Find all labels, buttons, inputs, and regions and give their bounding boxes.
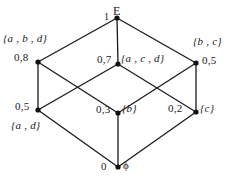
node-top-set: E bbox=[113, 5, 121, 17]
node-lower-right[interactable] bbox=[193, 109, 198, 114]
node-top-measure: 1 bbox=[104, 12, 109, 22]
lattice-edges bbox=[38, 18, 196, 167]
node-lower-left[interactable] bbox=[35, 107, 40, 112]
node-lower-right-measure: 0,2 bbox=[168, 103, 182, 114]
node-bottom-set: ϕ bbox=[123, 160, 129, 171]
node-lower-left-measure: 0,5 bbox=[15, 101, 29, 112]
node-bottom-measure: 0 bbox=[101, 161, 107, 172]
lattice-diagram: 1 E {a , b , d} 0,8 0,7 {a , c , d} {b ,… bbox=[0, 0, 231, 191]
node-upper-left-set: {a , b , d} bbox=[3, 33, 47, 44]
node-lower-right-set: {c} bbox=[200, 103, 214, 114]
node-upper-middle-set: {a , c , d} bbox=[121, 53, 164, 64]
node-lower-left-set: {a , d} bbox=[11, 120, 40, 131]
node-upper-middle[interactable] bbox=[115, 61, 120, 66]
edge-top-upper-middle bbox=[117, 18, 118, 64]
lattice-graph bbox=[0, 0, 231, 191]
node-bottom[interactable] bbox=[115, 164, 120, 169]
node-center-measure: 0,3 bbox=[96, 104, 110, 115]
node-upper-right-set: {b , c} bbox=[193, 36, 222, 47]
edge-lower-right-bottom bbox=[118, 112, 196, 167]
node-center-set: {b} bbox=[122, 103, 137, 114]
node-upper-left-measure: 0,8 bbox=[14, 52, 28, 63]
node-upper-right[interactable] bbox=[193, 60, 198, 65]
node-upper-right-measure: 0,5 bbox=[202, 55, 216, 66]
node-upper-middle-measure: 0,7 bbox=[97, 54, 111, 65]
node-upper-left[interactable] bbox=[35, 59, 40, 64]
edge-lower-left-bottom bbox=[38, 110, 118, 167]
node-center[interactable] bbox=[115, 110, 120, 115]
